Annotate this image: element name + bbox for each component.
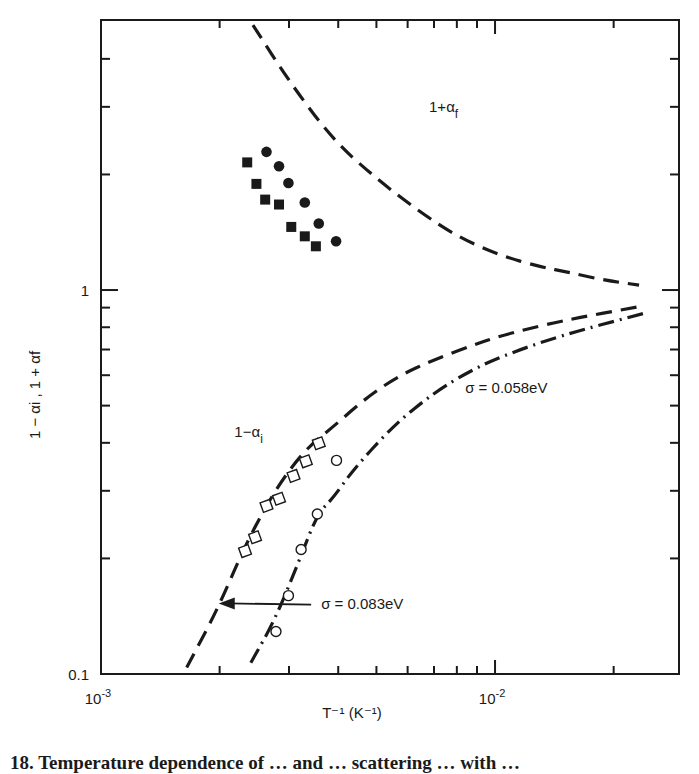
y-tick-label: 1 — [81, 282, 89, 299]
x-tick-label: 10-3 — [85, 687, 111, 707]
curve-5 — [187, 306, 644, 668]
annotation-label-upper: 1+αf — [429, 98, 459, 121]
annotation-label-lower: 1−αi — [234, 423, 262, 446]
filled-circle-point — [313, 218, 324, 229]
curve-6 — [251, 313, 644, 662]
open-square-point — [312, 437, 325, 450]
annotation-sigma-083: σ = 0.083eV — [321, 595, 403, 612]
filled-circle-point — [261, 147, 272, 158]
filled-circle-point — [299, 197, 310, 208]
filled-square-point — [286, 222, 296, 232]
y-tick-label: 0.1 — [68, 666, 89, 683]
figure-caption: 18. Temperature dependence of … and … sc… — [10, 752, 520, 774]
filled-circle-point — [331, 236, 342, 247]
filled-square-point — [300, 231, 310, 241]
x-tick-label: 10-2 — [479, 687, 505, 707]
open-square-point — [249, 531, 262, 544]
open-circle-point — [332, 455, 342, 465]
open-circle-point — [271, 627, 281, 637]
filled-circle-point — [274, 161, 285, 172]
open-circle-point — [283, 591, 293, 601]
open-square-point — [287, 470, 300, 483]
annotation-arrow-line — [229, 603, 311, 604]
filled-square-point — [311, 241, 321, 251]
x-axis-label: T⁻¹ (K⁻¹) — [322, 704, 381, 721]
filled-square-point — [242, 157, 252, 167]
y-axis-label: 1 − αi , 1 + αf — [26, 350, 43, 439]
curve-4 — [253, 25, 639, 285]
filled-square-point — [251, 179, 261, 189]
open-square-point — [273, 492, 286, 505]
filled-square-point — [274, 200, 284, 210]
open-circle-point — [296, 544, 306, 554]
filled-circle-point — [283, 178, 294, 189]
annotation-sigma-058: σ = 0.058eV — [465, 379, 547, 396]
open-square-point — [239, 545, 252, 558]
open-circle-point — [312, 509, 322, 519]
plot-frame — [101, 20, 679, 674]
filled-square-point — [260, 195, 270, 205]
